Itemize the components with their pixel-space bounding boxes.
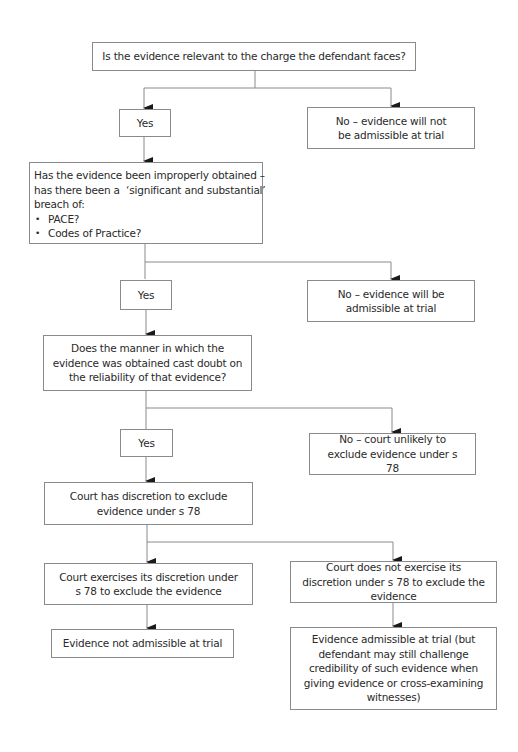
court-exercises-box: Court exercises its discretion under s 7…	[44, 563, 253, 605]
no-not-admissible-text: No – evidence will not be admissible at …	[330, 114, 452, 143]
yes-box-3: Yes	[120, 429, 173, 457]
court-not-exercise-text: Court does not exercise its discretion u…	[301, 560, 486, 604]
question-relevant-text: Is the evidence relevant to the charge t…	[102, 49, 405, 64]
evidence-admissible-box: Evidence admissible at trial (but defend…	[290, 627, 497, 710]
no-admissible-text: No – evidence will be admissible at tria…	[316, 287, 466, 316]
court-discretion-box: Court has discretion to exclude evidence…	[44, 482, 253, 525]
no-not-admissible-box: No – evidence will not be admissible at …	[307, 107, 475, 149]
breach-item-pace: PACE?	[34, 212, 265, 227]
question-reliability-text: Does the manner in which the evidence wa…	[50, 341, 245, 385]
question-improper-line-3: breach of:	[34, 197, 265, 212]
question-improper-line-1: Has the evidence been improperly obtaine…	[34, 168, 265, 183]
question-relevant-box: Is the evidence relevant to the charge t…	[92, 42, 416, 71]
yes-box-2: Yes	[120, 280, 172, 310]
question-improperly-obtained-box: Has the evidence been improperly obtaine…	[29, 162, 263, 244]
no-unlikely-exclude-text: No – court unlikely to exclude evidence …	[324, 432, 461, 476]
court-exercises-text: Court exercises its discretion under s 7…	[59, 570, 238, 599]
court-not-exercise-box: Court does not exercise its discretion u…	[290, 561, 497, 603]
question-reliability-box: Does the manner in which the evidence wa…	[43, 335, 252, 391]
no-admissible-box: No – evidence will be admissible at tria…	[307, 280, 475, 322]
yes-label-2: Yes	[138, 288, 154, 303]
evidence-admissible-text: Evidence admissible at trial (but defend…	[295, 632, 492, 705]
evidence-not-admissible-box: Evidence not admissible at trial	[51, 629, 234, 658]
question-improper-line-2: has there been a ‘significant and substa…	[34, 183, 265, 198]
yes-label-3: Yes	[138, 436, 154, 451]
court-discretion-text: Court has discretion to exclude evidence…	[55, 489, 242, 518]
yes-box-1: Yes	[119, 109, 171, 137]
evidence-not-admissible-text: Evidence not admissible at trial	[63, 636, 222, 651]
breach-list: PACE? Codes of Practice?	[34, 212, 265, 241]
breach-item-codes: Codes of Practice?	[34, 226, 265, 241]
yes-label-1: Yes	[137, 116, 153, 131]
no-unlikely-exclude-box: No – court unlikely to exclude evidence …	[309, 433, 476, 475]
